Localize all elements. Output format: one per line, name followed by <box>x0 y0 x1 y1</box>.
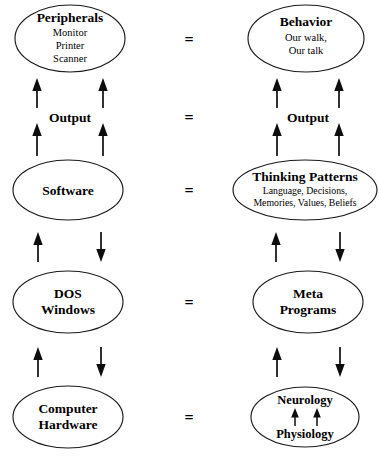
peripherals-title: Peripherals <box>37 10 104 25</box>
windows-title: Windows <box>41 302 95 317</box>
arrow-meta-up-left <box>272 347 281 377</box>
node-peripherals: Peripherals Monitor Printer Scanner <box>15 5 125 72</box>
dos-title: DOS <box>54 286 82 301</box>
node-neurology-physiology: Neurology Physiology <box>251 387 359 447</box>
diagram-canvas: Peripherals Monitor Printer Scanner Beha… <box>0 0 379 456</box>
node-meta-programs: Meta Programs <box>253 271 363 333</box>
arrow-output-left-lower-b <box>98 123 107 156</box>
arrow-output-right-lower-a <box>272 123 281 156</box>
computer-title: Computer <box>38 401 97 416</box>
thinking-patterns-title: Thinking Patterns <box>252 169 357 184</box>
arrow-dos-up-left <box>33 347 42 377</box>
software-title: Software <box>42 183 94 198</box>
neurology-title: Neurology <box>277 393 333 407</box>
peripherals-line-1: Monitor <box>53 27 88 38</box>
arrow-output-left-upper-a <box>32 78 41 108</box>
node-dos-windows: DOS Windows <box>13 271 123 333</box>
behavior-title: Behavior <box>280 14 333 29</box>
output-label-left: Output <box>49 110 92 125</box>
hardware-title: Hardware <box>39 417 98 432</box>
arrow-output-right-upper-a <box>272 78 281 108</box>
thinking-patterns-line-2: Memories, Values, Beliefs <box>253 197 356 208</box>
node-behavior: Behavior Our walk, Our talk <box>248 5 364 72</box>
programs-title: Programs <box>280 302 337 317</box>
equals-sign-3: = <box>184 182 193 199</box>
arrow-output-left-lower-a <box>32 123 41 156</box>
peripherals-line-2: Printer <box>56 40 85 51</box>
behavior-line-1: Our walk, <box>285 32 327 43</box>
arrow-software-down-right <box>96 232 105 262</box>
arrow-output-right-lower-b <box>334 123 343 156</box>
equals-sign-4: = <box>184 294 193 311</box>
meta-title: Meta <box>293 286 323 301</box>
node-computer-hardware: Computer Hardware <box>13 386 123 448</box>
arrow-output-right-upper-b <box>334 78 343 108</box>
node-thinking-patterns: Thinking Patterns Language, Decisions, M… <box>233 160 377 220</box>
arrow-meta-down-right <box>335 347 344 377</box>
peripherals-line-3: Scanner <box>53 53 87 64</box>
equals-sign-1: = <box>184 31 193 48</box>
arrow-output-left-upper-b <box>98 78 107 108</box>
analogy-diagram: Peripherals Monitor Printer Scanner Beha… <box>0 0 379 456</box>
equals-sign-5: = <box>184 409 193 426</box>
arrow-software-up-left <box>33 232 42 262</box>
arrow-thinking-down-right <box>335 232 344 262</box>
node-software: Software <box>13 160 123 220</box>
output-label-right: Output <box>287 110 330 125</box>
physiology-title: Physiology <box>276 427 334 441</box>
behavior-line-2: Our talk <box>289 45 324 56</box>
thinking-patterns-line-1: Language, Decisions, <box>263 185 348 196</box>
equals-sign-2: = <box>184 109 193 126</box>
arrow-dos-down-right <box>96 347 105 377</box>
arrow-thinking-up-left <box>271 232 280 262</box>
